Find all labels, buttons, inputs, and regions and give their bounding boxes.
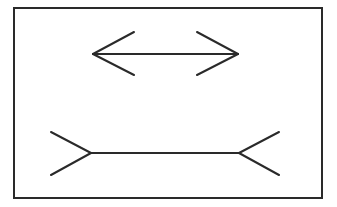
bottom-line-fin-0 [51, 132, 91, 153]
top-line-fin-3 [197, 54, 238, 75]
bottom-line-fin-3 [239, 153, 279, 175]
top-line-fin-1 [93, 54, 134, 75]
top-line-fin-0 [93, 32, 134, 54]
bottom-line-fin-1 [51, 153, 91, 175]
bottom-line-fins [51, 132, 279, 175]
top-line-arrowheads [93, 32, 238, 75]
muller-lyer-figure [0, 0, 337, 207]
top-line-fin-2 [197, 32, 238, 54]
bottom-line-fin-2 [239, 132, 279, 153]
illusion-canvas [0, 0, 337, 207]
